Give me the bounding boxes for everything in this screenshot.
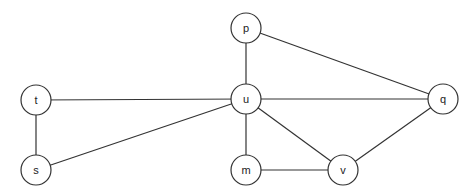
edge-u-v (246, 99, 343, 170)
node-m: m (231, 155, 261, 185)
node-s: s (21, 155, 51, 185)
node-v: v (328, 155, 358, 185)
edge-p-q (246, 28, 443, 99)
node-label: s (33, 164, 39, 176)
graph-svg: tspumvq (0, 0, 473, 193)
graph-diagram: tspumvq (0, 0, 473, 193)
node-label: q (440, 93, 446, 105)
node-label: t (34, 94, 37, 106)
node-t: t (21, 85, 51, 115)
node-label: v (340, 164, 346, 176)
node-q: q (428, 84, 458, 114)
node-label: p (243, 22, 249, 34)
edge-t-u (36, 99, 246, 100)
edge-v-q (343, 99, 443, 170)
node-p: p (231, 13, 261, 43)
edge-s-u (36, 99, 246, 170)
node-label: m (241, 164, 250, 176)
node-u: u (231, 84, 261, 114)
node-label: u (243, 93, 249, 105)
